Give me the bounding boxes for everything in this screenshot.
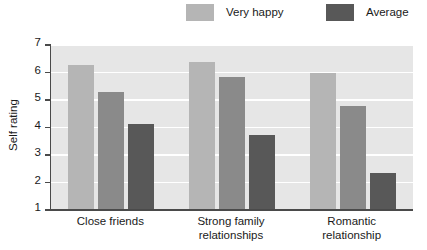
x-axis-group-label-line: Strong family: [171, 214, 292, 228]
legend-swatch-icon-very-happy: [186, 4, 214, 21]
chart-legend: Very happy Average: [0, 0, 427, 30]
y-axis-tick-label: 1: [35, 201, 41, 213]
x-axis-group-label-line: relationship: [291, 228, 412, 242]
legend-label-very-happy: Very happy: [226, 4, 284, 21]
x-axis-group-label: Romanticrelationship: [291, 214, 412, 242]
y-axis-tick: 6: [0, 72, 50, 73]
legend-entry-average: Average: [326, 4, 409, 21]
y-axis-tick-mark: [45, 209, 50, 211]
x-axis-group-label: Strong familyrelationships: [171, 214, 292, 242]
y-axis-tick-mark: [45, 99, 50, 101]
y-axis-tick-label: 3: [35, 146, 41, 158]
gridline: [51, 44, 413, 46]
legend-swatch-icon-average: [326, 4, 354, 21]
x-axis-group-label: Close friends: [50, 214, 171, 228]
legend-entry-very-happy: Very happy: [186, 4, 284, 21]
bar: [219, 77, 245, 209]
y-axis-tick-label: 5: [35, 91, 41, 103]
bar-chart-figure: Very happy Average Self rating 1234567Cl…: [0, 0, 427, 250]
y-axis-tick: 1: [0, 209, 50, 210]
y-axis-tick-label: 4: [35, 119, 41, 131]
bar: [340, 106, 366, 209]
plot-area: [50, 44, 413, 209]
bar: [370, 173, 396, 209]
y-axis-tick-label: 7: [35, 36, 41, 48]
bar: [98, 92, 124, 209]
x-axis-line: [50, 209, 413, 211]
y-axis-tick: 5: [0, 99, 50, 100]
y-axis-tick-label: 6: [35, 64, 41, 76]
y-axis-tick-mark: [45, 154, 50, 156]
x-axis-group-label-line: Romantic: [291, 214, 412, 228]
y-axis-tick: 7: [0, 44, 50, 45]
gridline: [51, 72, 413, 74]
bar: [128, 124, 154, 209]
y-axis-title-text: Self rating: [7, 99, 19, 151]
bar: [189, 62, 215, 209]
bar: [310, 73, 336, 209]
y-axis-tick: 4: [0, 127, 50, 128]
y-axis-tick: 3: [0, 154, 50, 155]
legend-label-average: Average: [366, 4, 409, 21]
bar: [68, 65, 94, 209]
y-axis-tick-mark: [45, 182, 50, 184]
y-axis-tick-mark: [45, 44, 50, 46]
x-axis-group-label-line: relationships: [171, 228, 292, 242]
y-axis-title: Self rating: [2, 0, 24, 250]
x-axis-group-label-line: Close friends: [50, 214, 171, 228]
y-axis-tick-mark: [45, 127, 50, 129]
y-axis-tick-label: 2: [35, 174, 41, 186]
y-axis-tick: 2: [0, 182, 50, 183]
y-axis-tick-mark: [45, 72, 50, 74]
bar: [249, 135, 275, 209]
